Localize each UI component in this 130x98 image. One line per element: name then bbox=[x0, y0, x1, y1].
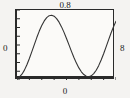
left-axis-label: 0 bbox=[3, 43, 8, 53]
bottom-axis-label: 0 bbox=[0, 86, 130, 96]
data-curve bbox=[17, 15, 116, 78]
plot-canvas bbox=[17, 10, 116, 80]
x-axis-ticks bbox=[17, 77, 116, 80]
plot-screenshot: 0.8 0 8 0 bbox=[0, 0, 130, 98]
right-axis-label: 8 bbox=[120, 43, 125, 53]
y-axis-ticks bbox=[17, 10, 20, 80]
plot-frame bbox=[15, 9, 114, 79]
